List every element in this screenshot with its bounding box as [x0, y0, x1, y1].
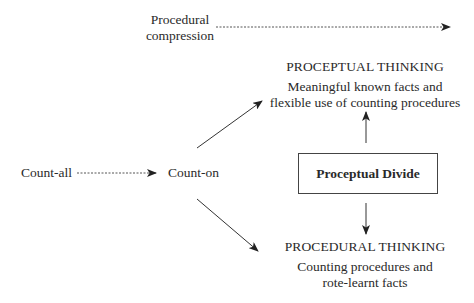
proceptual-thinking-description: Meaningful known facts and flexible use …	[255, 79, 474, 111]
proceptual-divide-box: Proceptual Divide	[298, 153, 438, 194]
proceptual-thinking-line1: Meaningful known facts and	[255, 79, 474, 95]
count-on-to-proceptual-arrow	[197, 101, 262, 148]
arrows-layer	[0, 0, 474, 303]
proceptual-thinking-title: PROCEPTUAL THINKING	[270, 59, 460, 75]
procedural-compression-label: Procedural compression	[145, 12, 215, 44]
procedural-thinking-line1: Counting procedures and	[270, 259, 460, 275]
proceptual-divide-label: Proceptual Divide	[316, 166, 420, 182]
count-on-to-procedural-arrow	[197, 199, 258, 251]
proceptual-thinking-line2: flexible use of counting procedures	[255, 95, 474, 111]
count-on-label: Count-on	[168, 165, 219, 181]
procedural-compression-line2: compression	[145, 28, 215, 44]
count-all-label: Count-all	[21, 165, 72, 181]
procedural-thinking-line2: rote-learnt facts	[270, 275, 460, 291]
procedural-compression-line1: Procedural	[145, 12, 215, 28]
procedural-thinking-title: PROCEDURAL THINKING	[270, 239, 460, 255]
procedural-thinking-description: Counting procedures and rote-learnt fact…	[270, 259, 460, 291]
